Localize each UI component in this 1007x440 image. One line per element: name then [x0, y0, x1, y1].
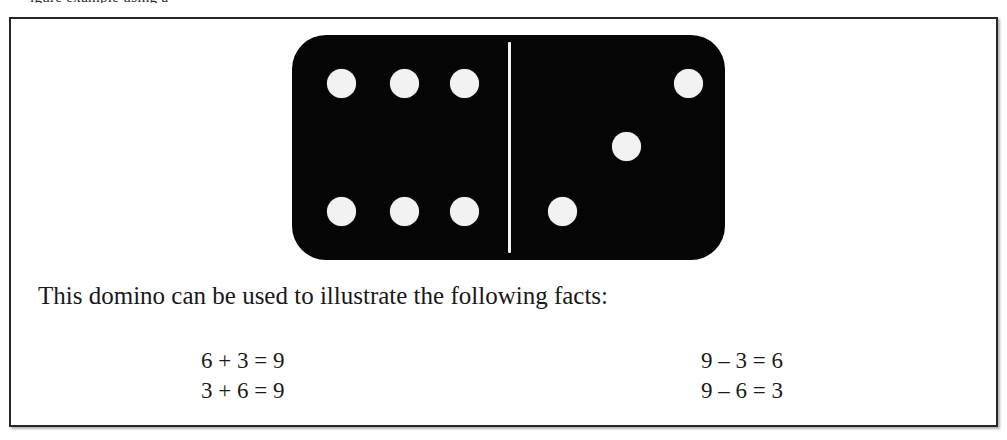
- addition-facts-column: 6 + 3 = 9 3 + 6 = 9: [201, 346, 284, 406]
- fact-subtraction-2: 9 – 6 = 3: [701, 376, 783, 406]
- figure-frame: This domino can be used to illustrate th…: [9, 17, 998, 427]
- fact-addition-2: 3 + 6 = 9: [201, 376, 284, 406]
- domino-divider-line: [508, 42, 511, 253]
- pip-left-2: [390, 69, 419, 98]
- pip-left-6: [450, 197, 479, 226]
- pip-left-5: [390, 197, 419, 226]
- pip-right-3: [548, 197, 577, 226]
- clipped-page-header: igure example using a: [30, 0, 790, 3]
- pip-left-3: [450, 69, 479, 98]
- pip-right-2: [612, 132, 641, 161]
- subtraction-facts-column: 9 – 3 = 6 9 – 6 = 3: [701, 346, 783, 406]
- domino-tile: [292, 35, 725, 260]
- fact-addition-1: 6 + 3 = 9: [201, 346, 284, 376]
- pip-left-1: [327, 69, 356, 98]
- figure-caption: This domino can be used to illustrate th…: [38, 281, 608, 311]
- clipped-header-text: igure example using a: [30, 0, 168, 3]
- pip-left-4: [327, 197, 356, 226]
- fact-subtraction-1: 9 – 3 = 6: [701, 346, 783, 376]
- pip-right-1: [674, 69, 703, 98]
- number-facts: 6 + 3 = 9 3 + 6 = 9 9 – 3 = 6 9 – 6 = 3: [11, 346, 1000, 418]
